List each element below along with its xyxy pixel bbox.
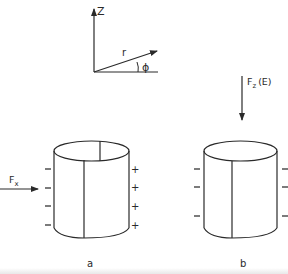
r-label: r — [122, 47, 127, 58]
phi-label: ϕ — [142, 61, 149, 74]
z-axis-label: Z — [97, 5, 105, 18]
plus-charge: + — [131, 201, 139, 212]
physics-diagram: Z r ϕ Fz(E) Fx — [0, 0, 288, 274]
fx-label: Fx — [9, 174, 19, 188]
cylinder-b: b — [194, 141, 288, 269]
coordinate-system: Z r ϕ — [94, 5, 158, 74]
fz-label: Fz(E) — [247, 76, 272, 90]
cylinder-a-bottom — [54, 228, 129, 238]
plus-charge: + — [131, 220, 139, 231]
cylinder-b-top — [204, 141, 277, 161]
force-z: Fz(E) — [242, 76, 272, 120]
cylinder-a-left-charges — [45, 169, 51, 225]
cylinder-a: + + + + a — [45, 141, 139, 269]
cylinder-b-bottom — [204, 228, 277, 238]
caption-strip — [0, 268, 288, 274]
cylinder-b-right-charges — [282, 169, 288, 216]
plus-charge: + — [131, 164, 139, 175]
cylinder-b-left-charges — [194, 169, 200, 216]
force-x: Fx — [0, 174, 38, 189]
plus-charge: + — [131, 182, 139, 193]
cylinder-a-top — [54, 141, 129, 161]
phi-angle-arc — [137, 62, 138, 72]
cylinder-a-right-charges: + + + + — [131, 164, 139, 231]
